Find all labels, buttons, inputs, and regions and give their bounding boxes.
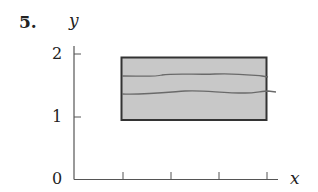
shaded-region bbox=[122, 58, 267, 121]
plot-canvas bbox=[0, 0, 318, 192]
figure: 5. y 2 1 0 x bbox=[0, 0, 318, 192]
